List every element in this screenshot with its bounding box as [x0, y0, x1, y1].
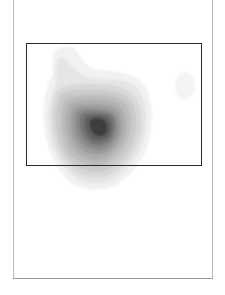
- plot-axes-box: [26, 43, 202, 166]
